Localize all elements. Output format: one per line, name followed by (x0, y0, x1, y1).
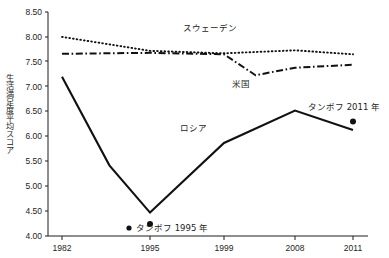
y-tick-label: 5.50 (25, 156, 42, 166)
y-tick-label: 7.50 (25, 57, 42, 67)
sweden-series-label: スウェーデン (183, 23, 237, 33)
y-tick-label: 6.00 (25, 131, 42, 141)
tambov-1995-label: タンボフ 1995 年 (136, 223, 208, 233)
y-axis-label: 生活満足度平均スコア (1, 74, 13, 154)
tambov-2011-point (350, 119, 356, 125)
y-tick-label: 5.00 (25, 181, 42, 191)
y-tick-label: 6.50 (25, 106, 42, 116)
tambov-data-points (147, 119, 356, 228)
y-tick-label: 8.50 (25, 7, 42, 17)
y-axis-ticks: 8.50 8.00 7.50 7.00 6.50 6.00 5.50 5.00 … (25, 7, 42, 241)
y-tick-label: 4.50 (25, 206, 42, 216)
x-tick-label: 1999 (215, 243, 234, 253)
y-tick-label: 7.00 (25, 82, 42, 92)
y-tick-label: 8.00 (25, 32, 42, 42)
russia-series-label: ロシア (180, 123, 207, 133)
tambov-2011-label: タンボフ 2011 年 (308, 102, 380, 112)
y-tick-label: 4.00 (25, 231, 42, 241)
series-line-sweden (62, 37, 353, 54)
life-satisfaction-line-chart: 生活満足度平均スコア 8.50 8.00 7.50 7.00 6.50 6.00… (0, 0, 389, 258)
series-line-russia (62, 77, 353, 213)
us-series-label: 米国 (232, 79, 250, 89)
x-tick-label: 1995 (141, 243, 160, 253)
x-tick-label: 1982 (53, 243, 72, 253)
x-tick-marks (62, 236, 353, 240)
x-tick-label: 2011 (344, 243, 363, 253)
x-tick-label: 2008 (286, 243, 305, 253)
chart-canvas: 8.50 8.00 7.50 7.00 6.50 6.00 5.50 5.00 … (0, 0, 389, 258)
tambov-1995-legend-dot (126, 225, 131, 230)
series-line-us (62, 53, 353, 75)
x-axis-ticks: 1982 1995 1999 2008 2011 (53, 243, 363, 253)
